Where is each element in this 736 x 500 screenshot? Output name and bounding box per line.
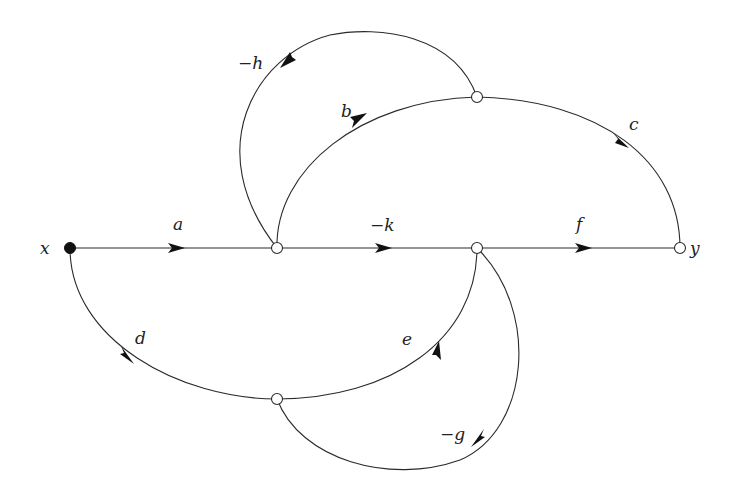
arrow-g-icon	[471, 429, 485, 447]
node-n2	[472, 243, 483, 254]
node-n1	[272, 243, 283, 254]
label-b: b	[341, 101, 352, 121]
label-e: e	[402, 329, 412, 349]
label-x: x	[40, 238, 50, 258]
node-top	[472, 92, 483, 103]
label-g: −g	[440, 424, 465, 444]
label-y: y	[689, 238, 700, 258]
arrow-b-icon	[350, 113, 367, 128]
node-y	[675, 243, 686, 254]
node-x	[65, 243, 76, 254]
label-d: d	[135, 328, 146, 348]
edge-g	[277, 248, 519, 470]
label-k: −k	[370, 215, 395, 235]
arrow-c-icon	[613, 133, 629, 148]
label-a: a	[173, 214, 183, 234]
label-h: −h	[238, 53, 263, 73]
edge-h	[240, 32, 477, 248]
signal-flow-graph: x y a −k f b c −h d e −g	[0, 0, 736, 500]
node-bottom	[272, 394, 283, 405]
label-c: c	[629, 114, 639, 134]
edge-d	[70, 248, 277, 399]
label-f: f	[574, 214, 585, 234]
edge-e	[277, 248, 477, 399]
